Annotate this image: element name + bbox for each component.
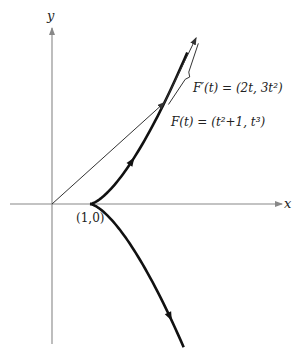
tangent-brace <box>168 43 198 104</box>
direction-arrow-lower <box>165 311 172 321</box>
cusp-point-label: (1,0) <box>76 211 104 225</box>
tangent-vector <box>164 38 196 103</box>
diagram-canvas: x y (1,0) F′(t) = (2t, 3t²) F(t) = (t²+1… <box>0 0 294 353</box>
derivative-label: F′(t) = (2t, 3t²) <box>192 81 283 95</box>
y-axis-label: y <box>46 8 55 23</box>
x-axis-label: x <box>284 196 292 211</box>
position-label: F(t) = (t²+1, t³) <box>170 115 265 129</box>
position-vector <box>52 102 164 204</box>
curve-lower-branch <box>90 204 184 347</box>
